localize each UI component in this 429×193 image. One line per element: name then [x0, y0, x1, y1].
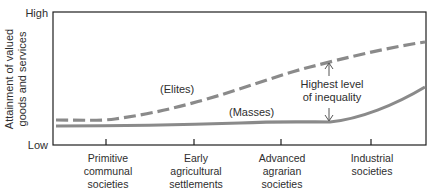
y-tick-low: Low: [28, 139, 48, 151]
svg-text:societies: societies: [88, 178, 129, 190]
svg-text:societies: societies: [262, 178, 303, 190]
svg-text:Early: Early: [184, 152, 209, 164]
svg-text:agrarian: agrarian: [263, 165, 302, 177]
x-category-early: Early agricultural settlements: [169, 152, 223, 190]
inequality-chart: Attainment of valued goods and services …: [0, 0, 429, 193]
y-axis-title-line1: Attainment of valued: [3, 29, 15, 129]
annotation-line2: of inequality: [303, 91, 362, 103]
svg-text:societies: societies: [352, 165, 393, 177]
y-axis-title: Attainment of valued goods and services: [3, 29, 28, 129]
y-tick-high: High: [25, 7, 48, 19]
annotation-line1: Highest level: [301, 78, 364, 90]
svg-text:communal: communal: [84, 165, 132, 177]
x-ticks: [106, 139, 371, 145]
svg-text:Industrial: Industrial: [351, 152, 394, 164]
elites-label: (Elites): [160, 83, 194, 95]
y-axis-title-line2: goods and services: [16, 31, 28, 126]
svg-text:settlements: settlements: [169, 178, 223, 190]
svg-text:Primitive: Primitive: [88, 152, 128, 164]
svg-text:Advanced: Advanced: [259, 152, 306, 164]
x-category-industrial: Industrial societies: [351, 152, 394, 177]
x-category-advanced: Advanced agrarian societies: [259, 152, 306, 190]
x-category-primitive: Primitive communal societies: [84, 152, 132, 190]
masses-label: (Masses): [229, 106, 274, 118]
svg-text:agricultural: agricultural: [170, 165, 221, 177]
